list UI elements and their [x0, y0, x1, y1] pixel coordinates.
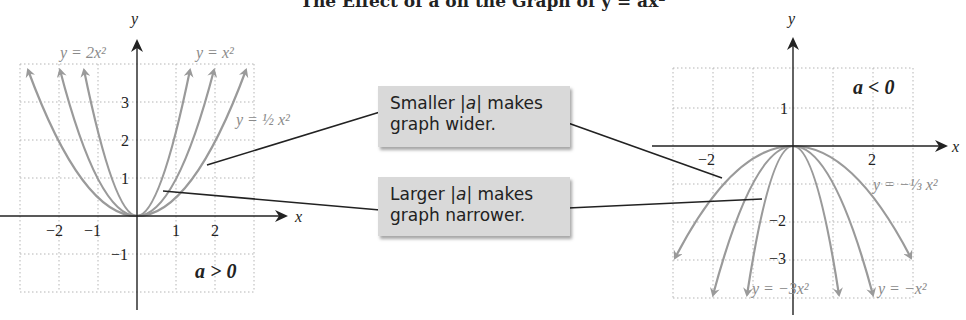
callout-line-1: Smaller |a| makes	[390, 93, 560, 114]
label-y-neg-third-x2: y = −⅓ x²	[871, 176, 939, 194]
left-x-tick: −1	[84, 222, 101, 239]
left-x-tick: 2	[211, 222, 219, 239]
left-y-tick: 1	[121, 170, 129, 187]
right-y-axis-label: y	[786, 10, 796, 28]
curve-2x2-left	[84, 70, 137, 216]
left-x-tick: −2	[46, 222, 63, 239]
left-y-tick: −1	[111, 246, 128, 263]
right-y-tick: 1	[780, 100, 788, 117]
right-x-tick: −2	[698, 151, 715, 168]
left-y-tick: 2	[121, 132, 129, 149]
curve-neg3x2-right	[793, 146, 839, 295]
label-y-neg-3x2: y = −3x²	[750, 280, 810, 298]
label-y-x2: y = x²	[194, 44, 235, 62]
right-x-tick: 2	[868, 151, 876, 168]
callout-larger-a-narrower: Larger |a| makes graph narrower.	[378, 177, 570, 236]
left-condition: a > 0	[195, 260, 236, 282]
left-y-tick: 3	[121, 94, 129, 111]
callout-line-2: graph wider.	[390, 114, 560, 135]
curve-2x2-right	[137, 70, 190, 216]
label-y-2x2: y = 2x²	[58, 44, 107, 62]
connector-wider-left	[207, 112, 380, 165]
callout-line-2: graph narrower.	[390, 205, 560, 226]
right-y-tick: −3	[769, 250, 786, 267]
left-x-axis-label: x	[294, 208, 302, 225]
connector-narrower-right	[568, 199, 762, 208]
right-x-axis-label: x	[951, 138, 959, 155]
right-condition: a < 0	[853, 76, 894, 98]
curve-third-right	[793, 146, 911, 258]
callout-smaller-a-wider: Smaller |a| makes graph wider.	[378, 86, 570, 147]
label-y-half-x2: y = ½ x²	[234, 111, 291, 129]
right-y-tick: −2	[769, 212, 786, 229]
callout-line-1: Larger |a| makes	[390, 184, 560, 205]
connector-narrower-left	[163, 191, 380, 210]
parabola-diagram: y x −2 −1 1 2 3 2 1 −1 a > 0 y = 2x² y =…	[0, 0, 966, 320]
left-y-axis-label: y	[129, 10, 139, 28]
left-x-tick: 1	[172, 222, 180, 239]
label-y-neg-x2: y = −x²	[876, 280, 928, 298]
